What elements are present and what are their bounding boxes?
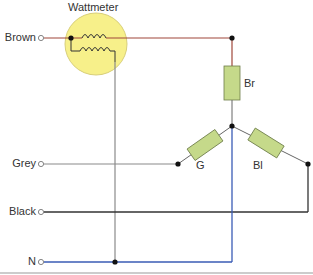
resistor-br [224, 66, 240, 100]
star-point-dot [229, 123, 234, 128]
resistor-bl [248, 128, 284, 158]
junction-dot [229, 35, 234, 40]
terminal-n [38, 259, 43, 264]
terminal-black [38, 209, 43, 214]
terminal-label-n: N [28, 256, 36, 267]
wattmeter-star-circuit-diagram: Wattmeter Brown Grey Black N Br G Bl [0, 0, 313, 275]
terminal-brown [38, 35, 43, 40]
terminal-grey [38, 161, 43, 166]
terminal-label-brown: Brown [5, 32, 36, 43]
terminal-label-black: Black [9, 206, 36, 217]
resistor-label-g: G [196, 160, 205, 171]
junction-dot [68, 35, 73, 40]
junction-dot [305, 161, 310, 166]
junction-dot [112, 259, 117, 264]
terminal-label-grey: Grey [12, 158, 36, 169]
resistor-g [187, 130, 223, 161]
circuit-drawing [0, 0, 313, 275]
resistor-label-br: Br [244, 78, 255, 89]
resistor-label-bl: Bl [253, 160, 263, 171]
wattmeter-circle [65, 13, 127, 75]
junction-dot [175, 161, 180, 166]
wattmeter-title: Wattmeter [68, 2, 118, 13]
